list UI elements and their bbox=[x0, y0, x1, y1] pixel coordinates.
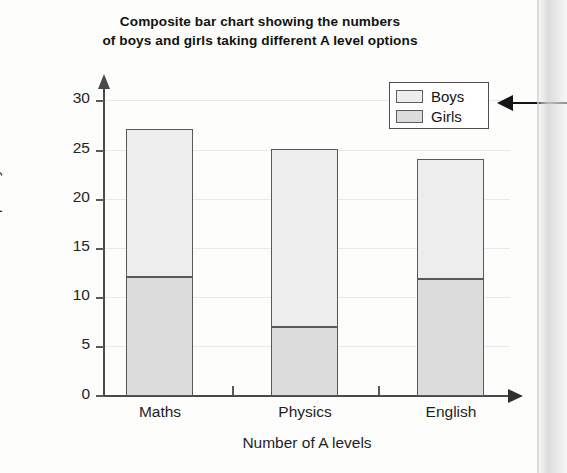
bar-physics-girls-segment bbox=[271, 327, 338, 396]
y-axis-arrowhead-icon bbox=[98, 74, 110, 89]
y-tick-label-15-text: 15 bbox=[73, 237, 90, 255]
x-label-physics: Physics bbox=[255, 403, 355, 421]
bar-maths-boys-segment bbox=[126, 129, 193, 277]
x-tick-1 bbox=[232, 386, 234, 395]
legend-label-girls: Girls bbox=[431, 109, 462, 124]
chart-legend: Boys Girls bbox=[389, 82, 489, 129]
bar-english-girls-segment bbox=[417, 279, 484, 396]
y-tick-20 bbox=[96, 199, 104, 201]
bar-physics-boys-segment bbox=[271, 149, 338, 327]
y-tick-10 bbox=[96, 297, 104, 299]
y-tick-label-0-text: 0 bbox=[81, 385, 90, 403]
x-label-maths: Maths bbox=[110, 403, 210, 421]
y-tick-label-25-text: 25 bbox=[73, 139, 90, 157]
x-axis-title: Number of A levels bbox=[104, 434, 510, 452]
y-tick-label-5-text: 5 bbox=[81, 335, 90, 353]
annotation-arrow-left-icon bbox=[497, 95, 513, 111]
y-tick-15 bbox=[96, 248, 104, 250]
y-axis-title: Frequency bbox=[0, 168, 3, 241]
y-tick-5 bbox=[96, 346, 104, 348]
y-tick-0 bbox=[96, 395, 104, 397]
page-edge-shadow bbox=[537, 0, 567, 473]
legend-label-boys: Boys bbox=[431, 89, 464, 104]
legend-swatch-boys-icon bbox=[396, 90, 423, 103]
y-tick-25 bbox=[96, 150, 104, 152]
y-tick-30 bbox=[96, 100, 104, 102]
composite-bar-chart: Composite bar chart showing the numbers … bbox=[0, 0, 567, 473]
x-tick-2 bbox=[378, 386, 380, 395]
chart-title-line-1: Composite bar chart showing the numbers bbox=[120, 14, 400, 29]
y-tick-label-20-text: 20 bbox=[73, 188, 90, 206]
scanned-page: Composite bar chart showing the numbers … bbox=[0, 0, 567, 473]
chart-title: Composite bar chart showing the numbers … bbox=[0, 12, 520, 51]
legend-swatch-girls-icon bbox=[396, 110, 423, 123]
chart-title-line-2: of boys and girls taking different A lev… bbox=[0, 31, 520, 50]
x-label-english: English bbox=[401, 403, 501, 421]
legend-item-girls: Girls bbox=[390, 106, 488, 126]
bar-maths-girls-segment bbox=[126, 277, 193, 396]
x-axis-arrowhead-icon bbox=[508, 389, 523, 403]
y-axis-line bbox=[103, 88, 105, 397]
bar-english-boys-segment bbox=[417, 159, 484, 279]
legend-item-boys: Boys bbox=[390, 86, 488, 106]
y-tick-label-30-text: 30 bbox=[73, 89, 90, 107]
y-tick-label-10-text: 10 bbox=[73, 286, 90, 304]
